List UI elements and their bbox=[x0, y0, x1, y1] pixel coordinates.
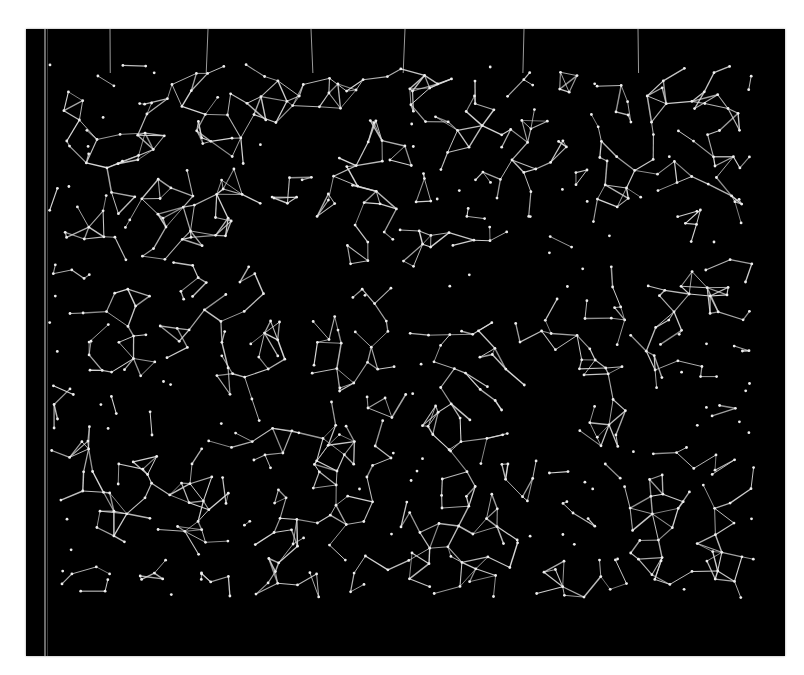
wire-nodes bbox=[48, 63, 755, 599]
wire-network-artwork bbox=[0, 0, 804, 675]
hanging-wires bbox=[110, 29, 639, 73]
wire-edges bbox=[50, 65, 754, 598]
